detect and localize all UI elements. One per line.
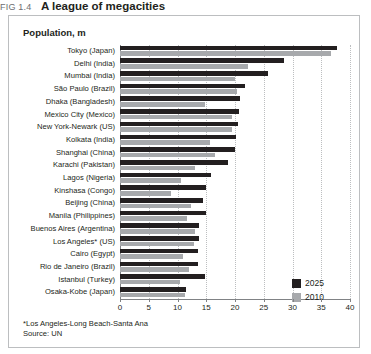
chart-panel: Population, m Tokyo (Japan)Delhi (India)… (8, 15, 360, 348)
bar-2010 (120, 140, 210, 145)
figure-name: A league of megacities (41, 0, 165, 12)
legend-label: 2025 (305, 278, 324, 289)
x-axis-tick (149, 299, 150, 302)
bar-2010 (120, 242, 194, 247)
bar-2025 (120, 46, 337, 51)
x-axis-tick-label: 40 (338, 303, 362, 312)
gridline (350, 45, 351, 299)
bar-2025 (120, 249, 198, 254)
bar-group (120, 58, 350, 70)
bar-2010 (120, 153, 215, 158)
category-label: Mumbai (India) (64, 70, 115, 82)
bar-2025 (120, 135, 236, 140)
bar-2010 (120, 254, 183, 259)
bar-group (120, 197, 350, 209)
bar-2010 (120, 293, 185, 298)
x-axis-tick (293, 299, 294, 302)
category-label: Rio de Janeiro (Brazil) (40, 261, 115, 273)
bar-2025 (120, 160, 228, 165)
x-axis-tick-label: 5 (137, 303, 161, 312)
bar-2025 (120, 58, 284, 63)
footnote-line: *Los Angeles-Long Beach-Santa Ana (23, 319, 148, 329)
figure-number: FIG 1.4 (0, 2, 31, 12)
footnote-line: Source: UN (23, 329, 148, 339)
category-label: Tokyo (Japan) (67, 45, 115, 57)
category-label: Los Angeles* (US) (53, 236, 115, 248)
x-axis-tick-label: 20 (223, 303, 247, 312)
x-axis-tick-label: 15 (194, 303, 218, 312)
x-axis-tick (321, 299, 322, 302)
bar-2025 (120, 185, 206, 190)
category-label: Beijing (China) (65, 197, 115, 209)
bar-group (120, 134, 350, 146)
category-label: Karachi (Pakistan) (53, 159, 115, 171)
bar-2010 (120, 204, 191, 209)
bar-2010 (120, 77, 235, 82)
category-label: Cairo (Egypt) (70, 248, 115, 260)
bar-2010 (120, 166, 195, 171)
bar-2025 (120, 274, 205, 279)
category-label: Osaka-Kobe (Japan) (45, 286, 115, 298)
bar-2010 (120, 267, 189, 272)
x-axis-tick-label: 25 (252, 303, 276, 312)
bar-group (120, 83, 350, 95)
x-axis-tick-label: 10 (166, 303, 190, 312)
x-axis-tick (206, 299, 207, 302)
bar-2025 (120, 287, 186, 292)
bar-group (120, 261, 350, 273)
category-label: Kolkata (India) (66, 134, 115, 146)
chart-legend: 20252010 (292, 278, 354, 306)
bar-2010 (120, 191, 171, 196)
bar-group (120, 96, 350, 108)
bar-2025 (120, 223, 199, 228)
category-label: Buenos Aires (Argentina) (31, 223, 115, 235)
x-axis-tick (120, 299, 121, 302)
x-axis-tick-label: 30 (281, 303, 305, 312)
x-axis-tick (178, 299, 179, 302)
legend-swatch (292, 279, 301, 288)
x-axis-tick-label: 0 (108, 303, 132, 312)
category-label: Lagos (Nigeria) (63, 172, 115, 184)
bar-2025 (120, 109, 239, 114)
x-axis-tick-label: 35 (309, 303, 333, 312)
category-label: Delhi (India) (74, 58, 115, 70)
bar-2025 (120, 236, 199, 241)
bar-2025 (120, 198, 203, 203)
bar-2010 (120, 229, 195, 234)
bar-2010 (120, 102, 205, 107)
category-label: Manila (Philippines) (49, 210, 115, 222)
category-label: Kinshasa (Congo) (54, 185, 115, 197)
figure-title: FIG 1.4 A league of megacities (0, 0, 371, 12)
category-label: Shanghai (China) (56, 147, 115, 159)
category-label: New York-Newark (US) (37, 121, 115, 133)
x-axis-tick (264, 299, 265, 302)
bar-group (120, 70, 350, 82)
bar-2010 (120, 178, 181, 183)
footnotes: *Los Angeles-Long Beach-Santa AnaSource:… (23, 319, 148, 339)
bar-group (120, 210, 350, 222)
bar-2010 (120, 115, 232, 120)
bar-group (120, 159, 350, 171)
bar-2025 (120, 147, 235, 152)
x-axis-tick (350, 299, 351, 302)
bar-2010 (120, 127, 232, 132)
bar-group (120, 236, 350, 248)
category-label: São Paulo (Brazil) (54, 83, 115, 95)
bar-2010 (120, 89, 237, 94)
category-label: Mexico City (Mexico) (45, 109, 115, 121)
bar-group (120, 147, 350, 159)
bar-group (120, 248, 350, 260)
bar-2025 (120, 173, 211, 178)
bar-2025 (120, 71, 268, 76)
bar-2010 (120, 51, 331, 56)
bar-group (120, 172, 350, 184)
bar-group (120, 121, 350, 133)
bar-2010 (120, 216, 187, 221)
bar-group (120, 109, 350, 121)
bar-2025 (120, 262, 198, 267)
category-label: Dhaka (Bangladesh) (46, 96, 115, 108)
bar-2025 (120, 84, 245, 89)
bar-group (120, 185, 350, 197)
panel-title: Population, m (23, 27, 86, 38)
plot-area (120, 45, 350, 299)
